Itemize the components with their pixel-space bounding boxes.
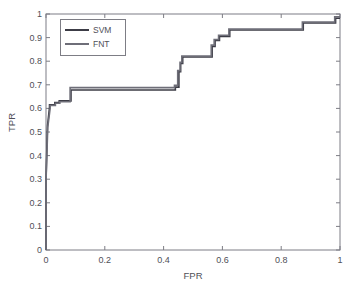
legend-swatch-svm bbox=[65, 29, 89, 31]
x-tick-label: 0.2 bbox=[99, 256, 112, 265]
x-tick-label: 0.8 bbox=[275, 256, 288, 265]
y-tick-label: 0.3 bbox=[14, 175, 42, 184]
y-tick-label: 0.1 bbox=[14, 222, 42, 231]
legend-label-fnt: FNT bbox=[93, 40, 110, 49]
y-tick-label: 1 bbox=[14, 10, 42, 19]
y-tick-label: 0.5 bbox=[14, 128, 42, 137]
legend-entry-svm: SVM bbox=[65, 26, 111, 35]
legend: SVM FNT bbox=[60, 19, 126, 56]
roc-curve-figure: TPR FPR SVM FNT 00.20.40.60.8100.10.20.3… bbox=[0, 0, 356, 291]
x-tick-label: 0 bbox=[43, 256, 48, 265]
x-tick-label: 0.6 bbox=[216, 256, 229, 265]
x-tick-label: 0.4 bbox=[157, 256, 170, 265]
legend-swatch-fnt bbox=[65, 43, 89, 45]
y-tick-label: 0.2 bbox=[14, 198, 42, 207]
y-tick-label: 0.6 bbox=[14, 104, 42, 113]
plot-canvas bbox=[0, 0, 356, 291]
legend-label-svm: SVM bbox=[93, 26, 111, 35]
x-tick-label: 1 bbox=[337, 256, 342, 265]
y-tick-label: 0.9 bbox=[14, 33, 42, 42]
y-tick-label: 0.7 bbox=[14, 80, 42, 89]
legend-entry-fnt: FNT bbox=[65, 40, 110, 49]
y-tick-label: 0 bbox=[14, 246, 42, 255]
y-tick-label: 0.4 bbox=[14, 151, 42, 160]
x-axis-label: FPR bbox=[184, 270, 203, 281]
y-tick-label: 0.8 bbox=[14, 57, 42, 66]
